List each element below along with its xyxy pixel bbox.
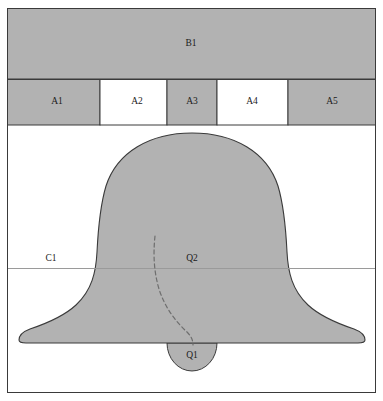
bell-diagram-figure: B1 A1 A2 A3 A4 A5 Q1 C1 Q2 [0, 0, 383, 401]
segment-a1-label: A1 [51, 96, 63, 106]
segment-a2-label: A2 [131, 96, 143, 106]
segment-a4-label: A4 [246, 96, 258, 106]
label-q2: Q2 [186, 253, 198, 263]
segment-a3-label: A3 [186, 96, 198, 106]
band-b1-label: B1 [185, 38, 196, 48]
band-b1: B1 [8, 9, 376, 80]
diagram-canvas: B1 A1 A2 A3 A4 A5 Q1 C1 Q2 [0, 0, 383, 401]
segment-row: A1 A2 A3 A4 A5 [8, 80, 376, 126]
label-c1: C1 [45, 253, 56, 263]
clapper-dome-label: Q1 [186, 350, 198, 360]
segment-a5-label: A5 [326, 96, 338, 106]
